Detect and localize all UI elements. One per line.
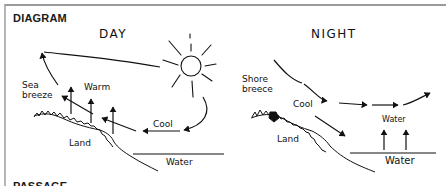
curved-arrow-icon bbox=[274, 60, 302, 83]
sun-icon bbox=[163, 34, 216, 97]
sea-breeze-illustration bbox=[0, 0, 446, 186]
land-profile bbox=[34, 111, 158, 171]
water-label-night: Water bbox=[385, 156, 415, 166]
shore-breeze-line1: Shore bbox=[242, 74, 273, 84]
night-title: NIGHT bbox=[311, 27, 357, 41]
land-label-night: Land bbox=[277, 134, 299, 144]
land-profile-night bbox=[251, 110, 375, 172]
land-label: Land bbox=[69, 138, 91, 148]
arrow-down-right-icon bbox=[315, 116, 345, 136]
curved-arrow-icon bbox=[184, 97, 207, 130]
cool-label: Cool bbox=[153, 119, 173, 129]
warm-label: Warm bbox=[84, 82, 110, 92]
sea-breeze-label: Sea breeze bbox=[22, 80, 53, 100]
water-label: Water bbox=[166, 157, 193, 167]
water-air-label-night: Water bbox=[382, 115, 406, 125]
shore-breeze-label: Shore breece bbox=[242, 74, 273, 94]
sea-breeze-line2: breeze bbox=[22, 90, 53, 100]
arrow-right-icon bbox=[339, 103, 367, 105]
cool-label-night: Cool bbox=[293, 99, 313, 109]
sea-breeze-line1: Sea bbox=[22, 80, 53, 90]
curved-arrow-icon bbox=[44, 52, 160, 67]
shore-breeze-line2: breece bbox=[242, 84, 273, 94]
